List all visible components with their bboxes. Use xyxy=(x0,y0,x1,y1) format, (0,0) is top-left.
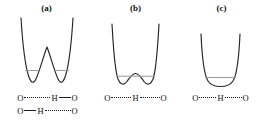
panel-b: (b) O H O xyxy=(93,0,178,132)
panel-a-formulas: O H O O H O xyxy=(0,92,95,118)
potential-energy-figure: (a) O H O O H O (b) xyxy=(0,0,266,132)
atom-hydrogen: H xyxy=(217,92,223,105)
atom-hydrogen: H xyxy=(51,92,57,105)
atom-oxygen-left: O xyxy=(192,92,198,105)
atom-oxygen-right: O xyxy=(72,105,78,118)
panel-b-label: (b) xyxy=(93,3,178,14)
atom-oxygen-left: O xyxy=(17,105,23,118)
atom-oxygen-right: O xyxy=(243,92,249,105)
bond-dotted-icon xyxy=(140,97,160,98)
atom-oxygen-right: O xyxy=(161,92,167,105)
panel-b-formulas: O H O xyxy=(93,92,178,105)
atom-hydrogen: H xyxy=(37,105,43,118)
formula-row: O H O xyxy=(0,92,95,105)
bond-solid-icon xyxy=(24,110,36,111)
bond-dotted-icon xyxy=(199,97,216,98)
bond-dotted-icon xyxy=(111,97,131,98)
panel-a-curve-path xyxy=(21,18,73,82)
panel-b-potential-curve xyxy=(93,16,178,90)
atom-oxygen-left: O xyxy=(104,92,110,105)
panel-c-potential-curve xyxy=(175,16,266,90)
panel-b-curve-path xyxy=(112,24,159,84)
bond-dotted-icon xyxy=(24,97,50,98)
bond-solid-icon xyxy=(59,97,71,98)
atom-oxygen-left: O xyxy=(17,92,23,105)
formula-row: O H O xyxy=(0,105,95,118)
bond-dotted-icon xyxy=(225,97,242,98)
panel-c: (c) O H O xyxy=(175,0,266,132)
formula-row: O H O xyxy=(175,92,266,105)
panel-a: (a) O H O O H O xyxy=(0,0,95,132)
panel-c-label: (c) xyxy=(175,3,266,14)
panel-c-formulas: O H O xyxy=(175,92,266,105)
panel-c-curve-path xyxy=(201,34,240,87)
bond-dotted-icon xyxy=(45,110,71,111)
atom-oxygen-right: O xyxy=(72,92,78,105)
atom-hydrogen: H xyxy=(132,92,138,105)
panel-a-label: (a) xyxy=(0,3,95,14)
panel-a-potential-curve xyxy=(0,16,95,90)
formula-row: O H O xyxy=(93,92,178,105)
